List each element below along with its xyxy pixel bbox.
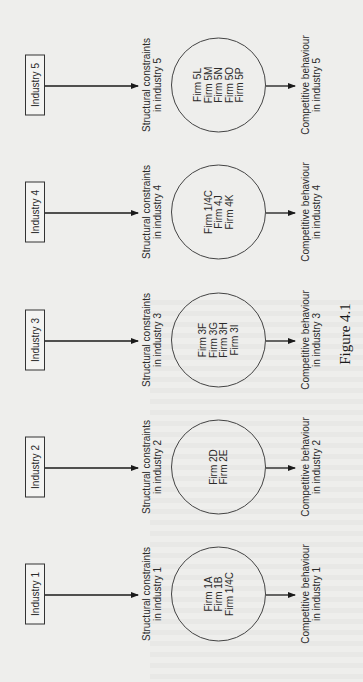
competitive-behaviour-label: Competitive behaviourin industry 4 — [300, 162, 323, 262]
competitive-behaviour-label: Competitive behaviourin industry 5 — [300, 35, 323, 135]
industry-label: Industry 3 — [30, 318, 41, 362]
firm-list: Firm 2DFirm 2E — [208, 449, 230, 485]
industry-structure-diagram: Industry 1Structural constraintsin indus… — [0, 0, 363, 682]
firm-list: Firm 1AFirm 1BFirm 1/4C — [203, 572, 235, 616]
structural-constraints-label: Structural constraintsin industry 3 — [141, 293, 164, 387]
firm-list: Firm 1/4CFirm 4JFirm 4K — [203, 190, 235, 234]
structural-constraints-label: Structural constraintsin industry 5 — [141, 38, 164, 132]
structural-constraints-label: Structural constraintsin industry 1 — [141, 547, 164, 641]
industry-row-4: Industry 4Structural constraintsin indus… — [26, 162, 323, 262]
structural-constraints-label: Structural constraintsin industry 4 — [141, 165, 164, 259]
industry-label: Industry 5 — [30, 63, 41, 107]
figure-caption: Figure 4.1 — [337, 303, 353, 365]
competitive-behaviour-label: Competitive behaviourin industry 1 — [300, 544, 323, 644]
industry-label: Industry 2 — [30, 445, 41, 489]
industry-label: Industry 1 — [30, 572, 41, 616]
industry-label: Industry 4 — [30, 190, 41, 234]
industry-row-1: Industry 1Structural constraintsin indus… — [26, 544, 323, 644]
industry-row-5: Industry 5Structural constraintsin indus… — [26, 35, 323, 135]
figure-page: Industry 1Structural constraintsin indus… — [0, 0, 363, 682]
firm-list: Firm 5LFirm 5MFirm 5NFirm 5OFirm 5P — [192, 67, 245, 104]
firm-list: Firm 3FFirm 3GFirm 3HFirm 3I — [197, 322, 240, 358]
